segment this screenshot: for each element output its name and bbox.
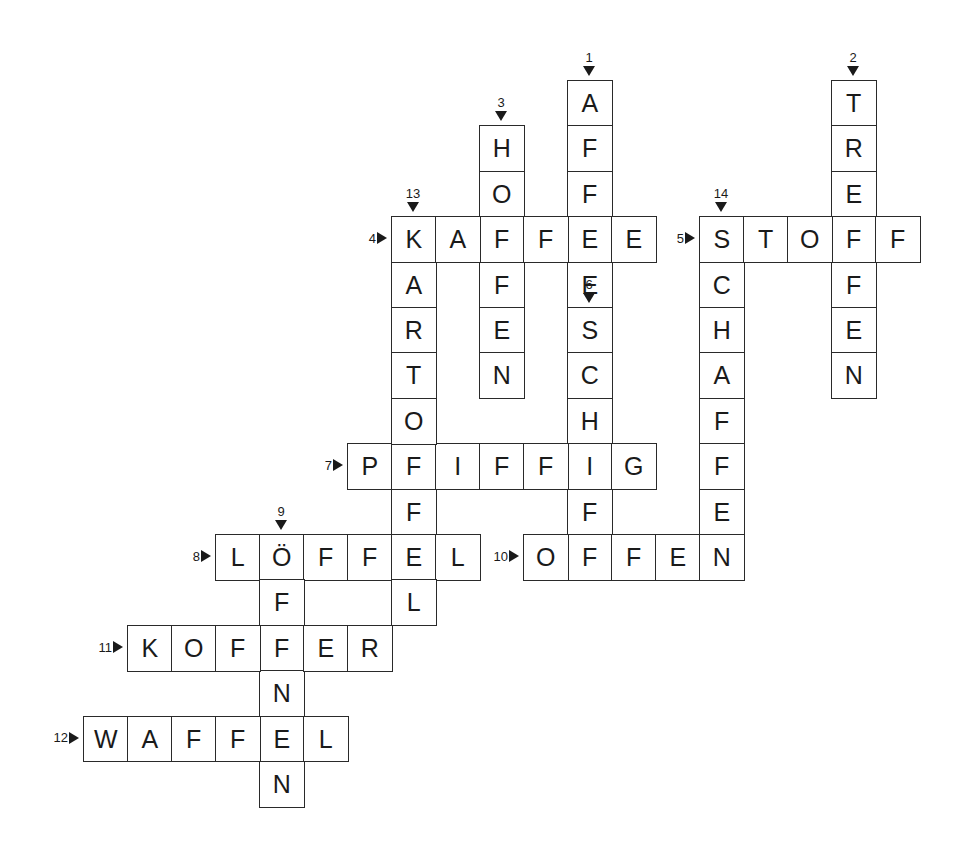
- grid-cell[interactable]: T: [391, 352, 437, 399]
- grid-cell[interactable]: O: [523, 534, 569, 581]
- grid-cell[interactable]: T: [743, 216, 789, 263]
- clue-number: 9: [277, 504, 284, 519]
- grid-cell[interactable]: L: [391, 579, 437, 626]
- cell-letter: C: [713, 271, 731, 300]
- grid-cell[interactable]: F: [215, 625, 261, 672]
- grid-cell[interactable]: Ö: [259, 534, 305, 581]
- grid-cell[interactable]: F: [391, 443, 437, 490]
- grid-cell[interactable]: W: [83, 716, 129, 763]
- grid-cell[interactable]: N: [259, 761, 305, 808]
- cell-letter: T: [758, 225, 773, 254]
- grid-cell[interactable]: N: [699, 534, 745, 581]
- grid-cell[interactable]: E: [259, 716, 305, 763]
- cell-letter: F: [494, 271, 509, 300]
- clue-number: 13: [406, 186, 420, 201]
- grid-cell[interactable]: R: [347, 625, 393, 672]
- grid-cell[interactable]: O: [391, 398, 437, 445]
- grid-cell[interactable]: F: [259, 625, 305, 672]
- grid-cell[interactable]: E: [303, 625, 349, 672]
- cell-letter: A: [449, 225, 466, 254]
- grid-cell[interactable]: F: [215, 716, 261, 763]
- grid-cell[interactable]: E: [567, 216, 613, 263]
- grid-cell[interactable]: I: [435, 443, 481, 490]
- grid-cell[interactable]: A: [699, 352, 745, 399]
- grid-cell[interactable]: F: [567, 125, 613, 172]
- grid-cell[interactable]: H: [567, 398, 613, 445]
- grid-cell[interactable]: E: [831, 171, 877, 218]
- grid-cell[interactable]: F: [303, 534, 349, 581]
- grid-cell[interactable]: I: [567, 443, 613, 490]
- grid-cell[interactable]: O: [479, 171, 525, 218]
- cell-letter: N: [493, 361, 511, 390]
- grid-cell[interactable]: L: [215, 534, 261, 581]
- grid-cell[interactable]: R: [391, 307, 437, 354]
- grid-cell[interactable]: S: [699, 216, 745, 263]
- grid-cell[interactable]: A: [127, 716, 173, 763]
- grid-cell[interactable]: E: [699, 489, 745, 536]
- grid-cell[interactable]: K: [127, 625, 173, 672]
- grid-cell[interactable]: N: [259, 670, 305, 717]
- cell-letter: I: [586, 452, 593, 481]
- grid-cell[interactable]: F: [171, 716, 217, 763]
- grid-cell[interactable]: G: [611, 443, 657, 490]
- grid-cell[interactable]: E: [831, 307, 877, 354]
- grid-cell[interactable]: O: [787, 216, 833, 263]
- grid-cell[interactable]: F: [347, 534, 393, 581]
- grid-cell[interactable]: A: [435, 216, 481, 263]
- grid-cell[interactable]: F: [831, 262, 877, 309]
- clue-number: 11: [99, 640, 113, 655]
- grid-cell[interactable]: E: [655, 534, 701, 581]
- grid-cell[interactable]: F: [523, 216, 569, 263]
- cell-letter: N: [273, 770, 291, 799]
- grid-cell[interactable]: F: [699, 398, 745, 445]
- grid-cell[interactable]: F: [523, 443, 569, 490]
- grid-cell[interactable]: A: [391, 262, 437, 309]
- grid-cell[interactable]: F: [567, 489, 613, 536]
- grid-cell[interactable]: L: [435, 534, 481, 581]
- grid-cell[interactable]: F: [391, 489, 437, 536]
- grid-cell[interactable]: F: [611, 534, 657, 581]
- grid-cell[interactable]: E: [479, 307, 525, 354]
- grid-cell[interactable]: L: [303, 716, 349, 763]
- grid-cell[interactable]: C: [699, 262, 745, 309]
- grid-cell[interactable]: F: [479, 262, 525, 309]
- grid-cell[interactable]: H: [479, 125, 525, 172]
- grid-cell[interactable]: F: [875, 216, 921, 263]
- grid-cell[interactable]: F: [479, 216, 525, 263]
- grid-cell[interactable]: F: [567, 171, 613, 218]
- grid-cell[interactable]: T: [831, 80, 877, 127]
- grid-cell[interactable]: F: [567, 534, 613, 581]
- arrow-right-icon: [377, 232, 387, 244]
- grid-cell[interactable]: S: [567, 307, 613, 354]
- grid-cell[interactable]: F: [479, 443, 525, 490]
- cell-letter: K: [141, 634, 158, 663]
- clue-number: 6: [585, 277, 592, 292]
- grid-cell[interactable]: E: [611, 216, 657, 263]
- arrow-down-icon: [495, 111, 507, 121]
- cell-letter: H: [581, 407, 599, 436]
- cell-letter: F: [538, 452, 553, 481]
- grid-cell[interactable]: R: [831, 125, 877, 172]
- grid-cell[interactable]: N: [479, 352, 525, 399]
- cell-letter: F: [582, 543, 597, 572]
- cell-letter: O: [492, 180, 511, 209]
- grid-cell[interactable]: P: [347, 443, 393, 490]
- cell-letter: T: [846, 89, 861, 118]
- cell-letter: F: [230, 725, 245, 754]
- grid-cell[interactable]: E: [391, 534, 437, 581]
- grid-cell[interactable]: F: [831, 216, 877, 263]
- grid-cell[interactable]: O: [171, 625, 217, 672]
- cell-letter: F: [362, 543, 377, 572]
- grid-cell[interactable]: N: [831, 352, 877, 399]
- grid-cell[interactable]: F: [259, 579, 305, 626]
- grid-cell[interactable]: F: [699, 443, 745, 490]
- grid-cell[interactable]: C: [567, 352, 613, 399]
- cell-letter: O: [184, 634, 203, 663]
- cell-letter: F: [714, 407, 729, 436]
- cell-letter: F: [582, 134, 597, 163]
- arrow-right-icon: [333, 459, 343, 471]
- grid-cell[interactable]: K: [391, 216, 437, 263]
- clue-marker-down-1: 1: [574, 50, 604, 76]
- grid-cell[interactable]: H: [699, 307, 745, 354]
- grid-cell[interactable]: A: [567, 80, 613, 127]
